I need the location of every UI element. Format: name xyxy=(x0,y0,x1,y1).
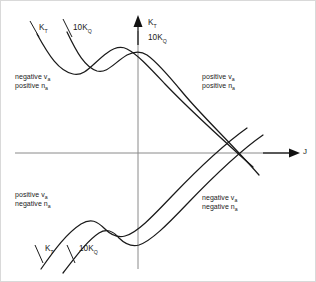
curve-label-kq-top: 10KQ xyxy=(73,23,92,32)
curve-label-kt-top: KT xyxy=(39,23,48,32)
right-arrow-icon xyxy=(263,149,300,158)
plot-canvas xyxy=(1,1,316,282)
up-arrow-icon xyxy=(134,15,143,45)
quadrant-label-third: positive va negative na xyxy=(15,190,51,208)
leader-kt-top xyxy=(30,21,39,37)
quadrant-label-fourth: negative va negative na xyxy=(202,193,238,211)
quadrant-label-second: negative va positive na xyxy=(15,72,50,90)
quadrant-second-line1: negative va xyxy=(15,72,50,81)
curve-label-kq-bottom: 10KQ xyxy=(79,244,98,253)
four-quadrant-propeller-diagram: KT 10KQ KT 10KQ KT 10KQ J negative va po… xyxy=(0,0,316,282)
quadrant-fourth-line1: negative va xyxy=(202,193,238,202)
leader-kq-bottom xyxy=(67,245,75,263)
leader-kt-bottom xyxy=(35,245,43,263)
curve-label-kt-bottom: KT xyxy=(45,244,54,253)
quadrant-label-first: positive va positive na xyxy=(202,72,235,90)
quadrant-fourth-line2: negative na xyxy=(202,202,238,211)
quadrant-third-line1: positive va xyxy=(15,190,51,199)
vertical-axis-label-kt: KT xyxy=(148,18,157,27)
quadrant-first-line1: positive va xyxy=(202,72,235,81)
quadrant-first-line2: positive na xyxy=(202,81,235,90)
curve-kq-upper xyxy=(67,32,259,175)
quadrant-third-line2: negative na xyxy=(15,199,51,208)
quadrant-second-line2: positive na xyxy=(15,81,50,90)
vertical-axis-label-kq: 10KQ xyxy=(148,33,167,42)
horizontal-axis-label-j: J xyxy=(303,147,307,156)
